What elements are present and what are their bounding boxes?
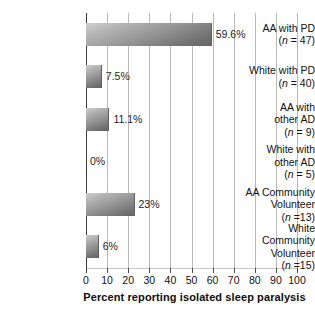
bar-value-label: 6% [103, 235, 118, 258]
label-text: White [288, 222, 315, 234]
label-text: White with [267, 143, 315, 155]
bar-value-label: 11.1% [113, 108, 142, 131]
label-text: other AD [274, 156, 315, 168]
bar-value-label: 23% [139, 193, 160, 216]
category-label-line: White [233, 222, 315, 235]
label-text: =13) [291, 211, 315, 223]
x-tick [86, 268, 87, 273]
x-tick [276, 268, 277, 273]
gridline [128, 13, 129, 268]
bar[interactable] [86, 108, 109, 131]
x-tick [107, 268, 108, 273]
bar-value-label: 0% [90, 150, 105, 173]
x-tick [192, 268, 193, 273]
gridline [149, 13, 150, 268]
gridline [170, 13, 171, 268]
x-tick [297, 268, 298, 273]
category-label-line: Volunteer [233, 198, 315, 211]
label-text: AA Community [246, 186, 315, 198]
category-label-line: (n = 40) [233, 77, 315, 90]
category-label-line: Volunteer [233, 247, 315, 260]
x-tick [149, 268, 150, 273]
category-label-line: Community [233, 234, 315, 247]
label-text: Volunteer [271, 247, 315, 259]
bar[interactable] [86, 193, 135, 216]
x-axis-title-text: Percent reporting isolated sleep paralys… [9, 291, 305, 303]
category-label-line: AA Community [233, 186, 315, 199]
bar[interactable] [86, 235, 99, 258]
x-tick-label: 100 [282, 274, 312, 286]
category-label-line: White with PD [233, 64, 315, 77]
bar-chart: AA with PD(n = 47)White with PD(n = 40)A… [0, 0, 315, 311]
x-tick [234, 268, 235, 273]
category-label-line: AA with [233, 101, 315, 114]
gridline [107, 13, 108, 268]
category-label: AA CommunityVolunteer(n =13) [233, 186, 315, 224]
label-text: Community [262, 234, 315, 246]
bar[interactable] [86, 23, 212, 46]
category-label-line: other AD [233, 156, 315, 169]
label-text: =15) [291, 259, 315, 271]
category-label-line: (n = 5) [233, 168, 315, 181]
label-text: = 47) [288, 34, 315, 46]
label-text: White with PD [249, 64, 315, 76]
label-text: Volunteer [271, 198, 315, 210]
label-text: AA with [280, 101, 315, 113]
x-axis-title: Percent reporting isolated sleep paralys… [0, 291, 315, 303]
x-tick [213, 268, 214, 273]
label-text: other AD [274, 113, 315, 125]
bar[interactable] [86, 65, 102, 88]
label-text: AA with PD [262, 22, 315, 34]
label-text: = 9) [294, 126, 315, 138]
gridline [213, 13, 214, 268]
label-text: = 5) [294, 168, 315, 180]
y-axis-line [86, 13, 87, 268]
x-tick [255, 268, 256, 273]
category-label: AA withother AD(n = 9) [233, 101, 315, 139]
label-text: = 40) [288, 77, 315, 89]
x-tick [128, 268, 129, 273]
x-tick [170, 268, 171, 273]
category-label: White with PD(n = 40) [233, 64, 315, 89]
category-label: WhiteCommunityVolunteer(n =15) [233, 222, 315, 272]
gridline [192, 13, 193, 268]
category-label-line: (n =15) [233, 259, 315, 272]
bar-value-label: 7.5% [106, 65, 130, 88]
bar-value-label: 59.6% [216, 23, 246, 46]
category-label: White withother AD(n = 5) [233, 143, 315, 181]
category-label-line: (n = 9) [233, 126, 315, 139]
category-label-line: White with [233, 143, 315, 156]
category-label-line: other AD [233, 113, 315, 126]
